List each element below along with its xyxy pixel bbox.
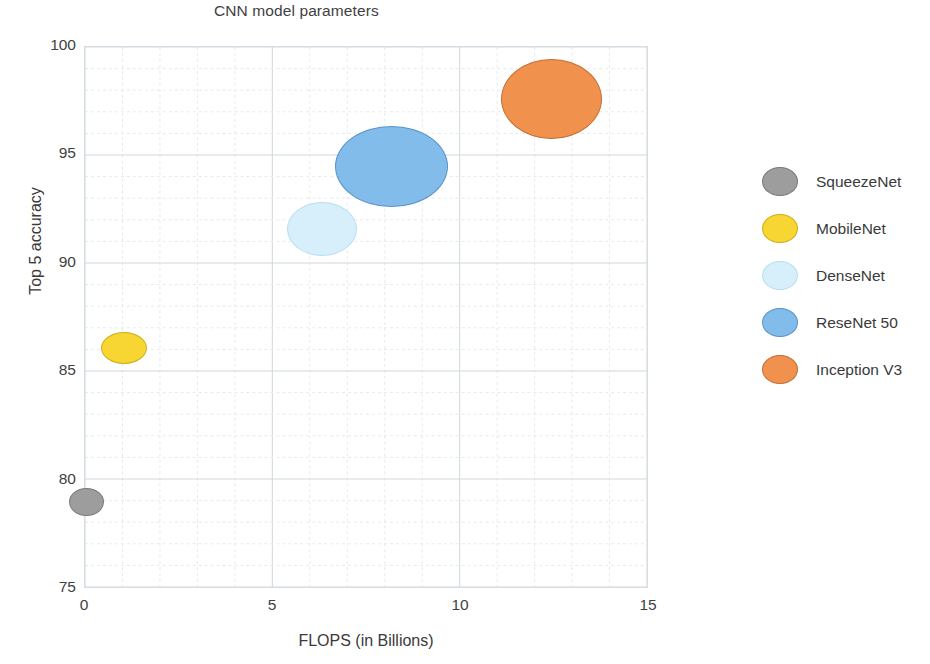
chart-title: CNN model parameters [214,2,379,20]
y-tick-80: 80 [32,470,76,488]
x-tick-15: 15 [623,596,673,614]
legend-swatch-icon [762,167,798,196]
chart-legend: SqueezeNetMobileNetDenseNetReseNet 50Inc… [762,158,930,393]
bubble-resenet-50[interactable] [335,126,448,207]
y-tick-75: 75 [32,578,76,596]
x-tick-0: 0 [59,596,109,614]
y-tick-95: 95 [32,144,76,162]
legend-label: DenseNet [816,267,885,285]
legend-item-densenet[interactable]: DenseNet [762,252,930,299]
x-tick-10: 10 [435,596,485,614]
legend-swatch-icon [762,308,798,337]
y-tick-85: 85 [32,361,76,379]
legend-item-mobilenet[interactable]: MobileNet [762,205,930,252]
legend-label: Inception V3 [816,361,902,379]
bubble-chart: CNN model parameters Top 5 accuracy 7580… [0,0,930,664]
x-tick-5: 5 [247,596,297,614]
bubble-inception-v3[interactable] [501,59,602,139]
y-tick-90: 90 [32,253,76,271]
y-axis-title: Top 5 accuracy [27,151,45,331]
legend-item-inception-v3[interactable]: Inception V3 [762,346,930,393]
x-axis-title: FLOPS (in Billions) [84,632,648,650]
legend-label: MobileNet [816,220,886,238]
legend-item-squeezenet[interactable]: SqueezeNet [762,158,930,205]
legend-swatch-icon [762,261,798,290]
legend-swatch-icon [762,214,798,243]
legend-item-resenet-50[interactable]: ReseNet 50 [762,299,930,346]
bubble-densenet[interactable] [287,202,357,256]
legend-label: ReseNet 50 [816,314,898,332]
y-tick-100: 100 [32,36,76,54]
plot-area [84,46,648,588]
legend-swatch-icon [762,355,798,384]
legend-label: SqueezeNet [816,173,901,191]
